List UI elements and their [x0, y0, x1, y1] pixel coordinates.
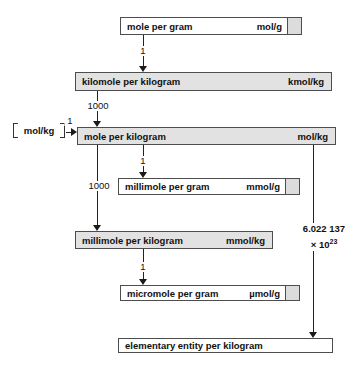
factor-label: 1000 [85, 181, 112, 191]
unit-cell [287, 18, 301, 34]
unit-box-millimole-per-kilogram: millimole per kilogram mmol/kg [75, 231, 273, 249]
factor-label: 1 [137, 262, 148, 272]
unit-box-mole-per-kilogram: mole per kilogram mol/kg [77, 127, 336, 145]
unit-box-elementary-entity-per-kilogram: elementary entity per kilogram [118, 338, 333, 353]
avogadro-power: 23 [329, 238, 337, 245]
unit-symbol: mol/g [257, 21, 287, 32]
factor-label: 1 [137, 46, 148, 56]
unit-name: kilomole per kilogram [76, 76, 288, 87]
unit-symbol: mmol/kg [226, 235, 272, 246]
unit-name: millimole per gram [119, 181, 246, 192]
unit-symbol: mmol/g [246, 181, 285, 192]
avogadro-constant-label: 6.022 137 × 1023 [292, 223, 356, 251]
unit-cell [285, 286, 299, 300]
unit-symbol: mol/kg [297, 131, 335, 142]
side-unit-bracket: mol/kg [13, 123, 65, 138]
unit-symbol: kmol/kg [288, 76, 331, 87]
factor-label: 1 [64, 116, 75, 126]
unit-symbol: µmol/g [249, 288, 285, 299]
avogadro-exponent: × 1023 [292, 236, 356, 252]
unit-cell [285, 179, 299, 194]
factor-label: 1 [137, 156, 148, 166]
unit-box-kilomole-per-kilogram: kilomole per kilogram kmol/kg [75, 72, 332, 91]
unit-box-mole-per-gram: mole per gram mol/g [120, 17, 302, 35]
unit-conversion-diagram: mole per gram mol/g kilomole per kilogra… [0, 0, 356, 373]
unit-name: elementary entity per kilogram [119, 340, 332, 351]
unit-name: millimole per kilogram [76, 235, 226, 246]
avogadro-base: × 10 [311, 239, 330, 250]
unit-symbol: mol/kg [18, 125, 60, 136]
unit-name: mole per kilogram [78, 131, 297, 142]
unit-box-millimole-per-gram: millimole per gram mmol/g [118, 178, 300, 195]
avogadro-mantissa: 6.022 137 [292, 223, 356, 236]
unit-name: mole per gram [121, 21, 257, 32]
unit-name: micromole per gram [121, 288, 249, 299]
factor-label: 1000 [84, 101, 111, 111]
unit-box-micromole-per-gram: micromole per gram µmol/g [120, 285, 300, 301]
